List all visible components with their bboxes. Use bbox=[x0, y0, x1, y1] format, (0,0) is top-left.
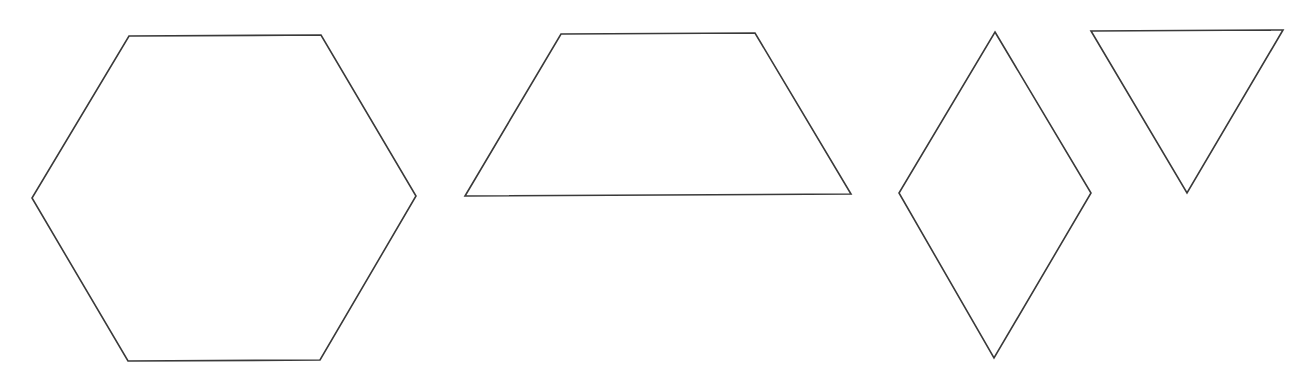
triangle-shape bbox=[1091, 30, 1283, 193]
rhombus-shape bbox=[899, 32, 1091, 358]
trapezoid-shape bbox=[465, 33, 851, 196]
shapes-canvas bbox=[0, 0, 1297, 381]
hexagon-shape bbox=[32, 35, 416, 361]
